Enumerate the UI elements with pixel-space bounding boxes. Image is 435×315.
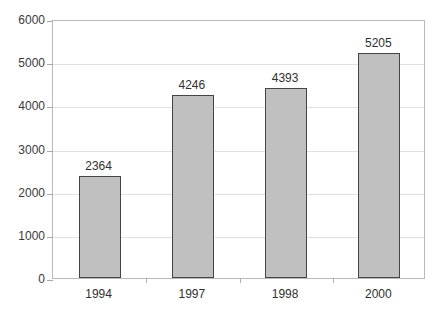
x-axis-tick-label: 1998 [255, 288, 315, 301]
plot-area [52, 20, 425, 279]
bar[interactable] [358, 53, 400, 278]
y-axis-tick [47, 107, 53, 108]
bar-value-label: 4393 [255, 72, 315, 85]
x-axis-tick-label: 2000 [348, 288, 408, 301]
bar-chart-figure: 0100020003000400050006000 23644246439352… [0, 0, 435, 315]
y-axis-tick [47, 64, 53, 65]
y-axis-tick-label: 1000 [1, 230, 45, 242]
bar-value-label: 4246 [162, 79, 222, 92]
y-axis-tick-label: 3000 [1, 144, 45, 156]
x-axis-tick-label: 1994 [69, 288, 129, 301]
bar-value-label: 5205 [348, 37, 408, 50]
y-axis-tick-label: 6000 [1, 14, 45, 26]
y-axis-tick [47, 237, 53, 238]
y-axis-tick-label: 5000 [1, 57, 45, 69]
y-axis-tick-label: 0 [1, 273, 45, 285]
x-axis-tick [333, 278, 334, 283]
bar[interactable] [265, 88, 307, 278]
x-axis-tick-label: 1997 [162, 288, 222, 301]
y-axis-tick [47, 21, 53, 22]
bar-value-label: 2364 [69, 160, 129, 173]
bar[interactable] [79, 176, 121, 278]
y-axis-tick-label: 2000 [1, 187, 45, 199]
bar[interactable] [172, 95, 214, 278]
y-axis-tick [47, 194, 53, 195]
y-axis-tick [47, 151, 53, 152]
y-axis-tick [47, 280, 53, 281]
y-axis-tick-label: 4000 [1, 100, 45, 112]
x-axis-tick [146, 278, 147, 283]
x-axis-tick [240, 278, 241, 283]
